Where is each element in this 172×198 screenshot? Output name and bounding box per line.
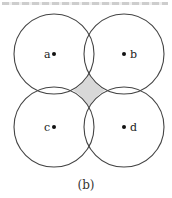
node-label-a: a	[44, 48, 51, 61]
four-circle-coverage-diagram: abcd	[0, 0, 172, 198]
center-dot-c	[52, 125, 56, 129]
shaded-gap-fill	[73, 74, 105, 107]
center-dot-b	[122, 52, 126, 56]
node-label-d: d	[130, 121, 137, 134]
node-label-c: c	[44, 121, 50, 134]
node-label-b: b	[130, 48, 137, 61]
figure-caption: (b)	[0, 178, 172, 192]
center-dot-d	[122, 125, 126, 129]
center-dot-a	[52, 52, 56, 56]
